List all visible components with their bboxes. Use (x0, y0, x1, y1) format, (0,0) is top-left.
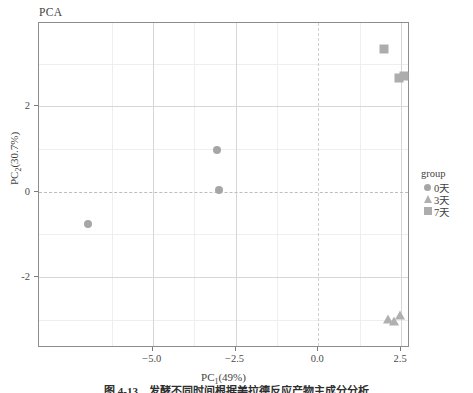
x-axis-tick-label: 0.0 (311, 353, 324, 364)
data-points-layer (39, 23, 408, 346)
x-axis-tick-label: 2.5 (394, 353, 407, 364)
y-axis-title-text: PC2(30.7%) (8, 132, 20, 185)
pca-figure: PCA −5.0−2.50.02.520-2 PC1(49%) PC2(30.7… (0, 0, 473, 393)
y-axis-title-tail: (30.7%) (8, 132, 20, 168)
figure-caption: 图 4-13 发酵不同时间根据美拉德反应产物主成分分析 (0, 385, 473, 393)
y-axis-title-subscript: 2 (14, 168, 23, 172)
legend-items: 0天3天7天 (421, 181, 473, 217)
data-point-square (400, 71, 409, 80)
x-axis-tick-mark (235, 347, 236, 351)
data-point-circle (84, 220, 92, 228)
data-point-circle (213, 146, 221, 154)
square-icon (424, 207, 432, 215)
x-axis-tick-mark (400, 347, 401, 351)
legend: group 0天3天7天 (421, 168, 473, 217)
legend-key-square-icon (421, 207, 434, 215)
y-axis-tick-label: 2 (6, 100, 30, 111)
x-axis-tick-label: −2.5 (225, 353, 244, 364)
x-axis-tick-mark (152, 347, 153, 351)
legend-item-label: 7天 (434, 204, 449, 219)
legend-key-triangle-icon (421, 195, 434, 203)
x-axis-tick-label: −5.0 (142, 353, 161, 364)
legend-title: group (421, 168, 473, 179)
y-axis-tick-mark (34, 191, 38, 192)
x-axis-title: PC1(49%) (38, 371, 409, 386)
y-axis-title: PC2(30.7%) (8, 132, 23, 185)
y-axis-tick-mark (34, 276, 38, 277)
y-axis-tick-label: -2 (6, 271, 30, 282)
triangle-icon (424, 195, 432, 203)
y-axis-tick-label: 0 (6, 185, 30, 196)
x-axis-title-tail: (49%) (218, 371, 246, 383)
legend-item[interactable]: 7天 (421, 205, 473, 217)
plot-panel (38, 22, 409, 347)
x-axis-tick-mark (317, 347, 318, 351)
x-axis-title-text: PC1(49%) (201, 371, 246, 383)
y-axis-tick-mark (34, 105, 38, 106)
data-point-circle (215, 186, 223, 194)
data-point-triangle (395, 310, 405, 319)
plot-title: PCA (39, 6, 62, 18)
legend-key-circle-icon (421, 184, 434, 191)
data-point-square (380, 44, 389, 53)
circle-icon (424, 184, 431, 191)
